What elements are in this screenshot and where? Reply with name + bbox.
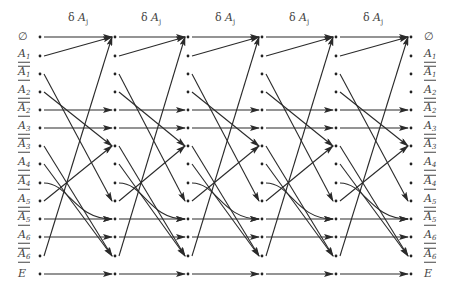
delta-symbol: δ (141, 11, 151, 24)
state-node (261, 236, 264, 239)
column-header-2: δ Aj (141, 11, 161, 26)
state-node (39, 236, 42, 239)
transition-arrow (340, 146, 408, 256)
column-header-3: δ Aj (215, 11, 235, 26)
state-node (114, 145, 117, 148)
transition-arrow (192, 146, 259, 201)
state-subscript: 3 (26, 143, 30, 151)
state-symbol: A2 (424, 85, 436, 99)
state-node (39, 109, 42, 112)
state-symbol: A6 (18, 230, 30, 244)
state-label-A5bar-right: A5 (424, 211, 436, 226)
state-label-A5bar-left: A5 (18, 211, 30, 226)
state-node (187, 236, 190, 239)
state-node (114, 255, 117, 258)
state-node (114, 36, 117, 39)
state-label-A1-right: A1 (424, 48, 436, 63)
delta-symbol: δ (68, 11, 78, 24)
transition-arrow (44, 164, 112, 256)
state-node (39, 145, 42, 148)
state-label-A2bar-right: A2 (424, 102, 436, 117)
state-symbol: A4 (424, 175, 436, 190)
state-symbol: A5 (424, 194, 436, 208)
state-subscript: 4 (26, 161, 30, 169)
state-node (114, 73, 117, 76)
state-symbol: A3 (424, 138, 436, 153)
state-node (39, 73, 42, 76)
state-symbol: A5 (424, 211, 436, 226)
transition-arrow (340, 146, 408, 201)
state-node (410, 145, 413, 148)
state-subscript: 5 (432, 198, 436, 206)
state-symbol: A2 (18, 85, 30, 99)
state-subscript: 2 (26, 89, 30, 97)
state-node (410, 91, 413, 94)
operator-subscript: j (159, 18, 161, 26)
state-node (335, 145, 338, 148)
state-node (39, 200, 42, 203)
state-label-A1bar-left: A1 (18, 66, 30, 81)
state-subscript: 4 (432, 180, 436, 188)
transition-arrow (192, 37, 259, 56)
state-node (114, 236, 117, 239)
state-node (114, 273, 117, 276)
state-label-A3bar-left: A3 (18, 138, 30, 153)
state-label-A4-left: A4 (18, 156, 30, 171)
state-subscript: 3 (432, 125, 436, 133)
transition-arrow (192, 37, 259, 256)
transition-arrow (119, 164, 185, 256)
state-subscript: 6 (26, 234, 30, 242)
state-node (261, 109, 264, 112)
transition-arrow (266, 146, 333, 256)
state-node (410, 218, 413, 221)
state-node (335, 273, 338, 276)
state-node (410, 36, 413, 39)
state-label-A4bar-right: A4 (424, 175, 436, 190)
transition-arrow (266, 164, 333, 256)
state-node (410, 182, 413, 185)
state-subscript: 1 (26, 53, 30, 61)
state-node (187, 163, 190, 166)
state-label-A3-right: A3 (424, 120, 436, 135)
state-node (335, 218, 338, 221)
state-symbol: A1 (18, 49, 30, 63)
state-label-empty-left: ∅ (18, 31, 28, 42)
state-node (187, 145, 190, 148)
transition-arrow (119, 37, 185, 56)
state-label-E-left: E (18, 268, 26, 279)
state-symbol: E (424, 269, 432, 279)
state-symbol: A4 (18, 175, 30, 190)
operator-symbol: A (151, 11, 159, 24)
state-node (114, 127, 117, 130)
state-subscript: 5 (432, 216, 436, 224)
state-label-A6bar-right: A6 (424, 248, 436, 263)
state-symbol: A6 (424, 248, 436, 263)
state-label-A6bar-left: A6 (18, 248, 30, 263)
transition-arrow (44, 37, 112, 256)
state-symbol: A1 (424, 49, 436, 63)
state-subscript: 1 (432, 53, 436, 61)
state-symbol: ∅ (18, 32, 28, 42)
state-node (187, 109, 190, 112)
state-node (261, 91, 264, 94)
operator-subscript: j (233, 18, 235, 26)
state-node (335, 73, 338, 76)
state-node (335, 163, 338, 166)
transition-arrow (44, 37, 112, 56)
transition-arrow (119, 37, 185, 256)
transition-arrow (119, 146, 185, 256)
transition-arrow (119, 146, 185, 201)
transition-arrow (266, 146, 333, 201)
state-node (335, 255, 338, 258)
delta-symbol: δ (289, 11, 299, 24)
state-node (114, 55, 117, 58)
transition-arrow (192, 164, 259, 256)
transition-arrow (340, 164, 408, 256)
state-subscript: 2 (432, 107, 436, 115)
state-node (187, 127, 190, 130)
state-node (187, 73, 190, 76)
state-label-A1bar-right: A1 (424, 66, 436, 81)
operator-subscript: j (307, 18, 309, 26)
state-subscript: 6 (432, 234, 436, 242)
state-symbol: ∅ (424, 32, 434, 42)
